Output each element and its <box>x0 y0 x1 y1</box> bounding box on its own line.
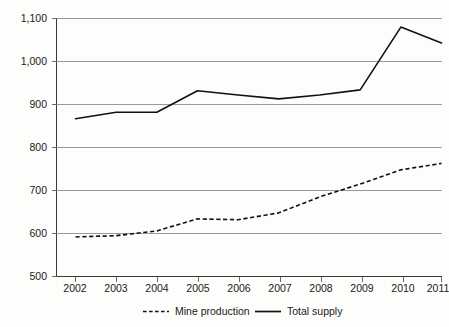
x-label-2010: 2010 <box>391 282 415 294</box>
y-label-600: 600 <box>29 227 47 239</box>
chart-background <box>0 0 449 327</box>
x-label-2009: 2009 <box>350 282 374 294</box>
x-label-2011: 2011 <box>427 282 449 294</box>
line-chart: 1,100 1,000 900 800 700 600 500 <box>0 0 449 327</box>
y-label-1000: 1,000 <box>21 55 47 67</box>
x-label-2007: 2007 <box>268 282 292 294</box>
legend-label-total-supply: Total supply <box>287 305 343 317</box>
y-label-700: 700 <box>29 184 47 196</box>
x-label-2006: 2006 <box>227 282 251 294</box>
y-label-500: 500 <box>29 270 47 282</box>
x-label-2008: 2008 <box>309 282 333 294</box>
chart-svg: 1,100 1,000 900 800 700 600 500 <box>0 0 449 327</box>
y-label-1100: 1,100 <box>21 12 47 24</box>
y-label-900: 900 <box>29 98 47 110</box>
x-label-2002: 2002 <box>63 282 87 294</box>
chart-canvas: 1,100 1,000 900 800 700 600 500 <box>0 0 449 327</box>
x-label-2003: 2003 <box>104 282 128 294</box>
legend-label-mine-production: Mine production <box>175 305 250 317</box>
x-label-2005: 2005 <box>186 282 210 294</box>
x-label-2004: 2004 <box>145 282 169 294</box>
y-label-800: 800 <box>29 141 47 153</box>
